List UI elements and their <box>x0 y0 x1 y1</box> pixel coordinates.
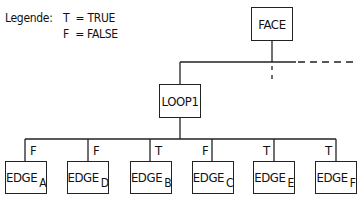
edge-node-f: EDGEF <box>315 161 357 194</box>
edge-label: EDGE <box>316 170 347 185</box>
edge-flag: F <box>30 143 37 158</box>
edge-label: EDGE <box>254 170 285 185</box>
edge-node-b: EDGEB <box>130 161 172 194</box>
edge-node-e: EDGEE <box>253 161 295 194</box>
edge-node-c: EDGEC <box>192 161 234 194</box>
edge-label: EDGE <box>131 170 162 185</box>
edge-subscript: F <box>350 176 356 190</box>
face-label: FACE <box>258 17 285 32</box>
edge-node-a: EDGEA <box>5 161 47 194</box>
edge-flag: T <box>263 143 270 158</box>
edge-subscript: E <box>287 176 293 190</box>
loop-node: LOOP1 <box>159 84 201 118</box>
edge-flag: T <box>155 143 162 158</box>
edge-label: EDGE <box>67 170 98 185</box>
edge-subscript: D <box>101 176 109 190</box>
edge-label: EDGE <box>193 170 224 185</box>
edge-flag: F <box>202 143 209 158</box>
edge-subscript: C <box>226 176 233 190</box>
edge-subscript: A <box>39 176 46 190</box>
edge-flag: F <box>93 143 100 158</box>
edge-node-d: EDGED <box>67 161 109 194</box>
edge-label: EDGE <box>6 170 37 185</box>
face-node: FACE <box>251 7 293 41</box>
edge-subscript: B <box>164 176 171 190</box>
edge-flag: T <box>325 143 332 158</box>
loop-label: LOOP1 <box>162 94 199 109</box>
